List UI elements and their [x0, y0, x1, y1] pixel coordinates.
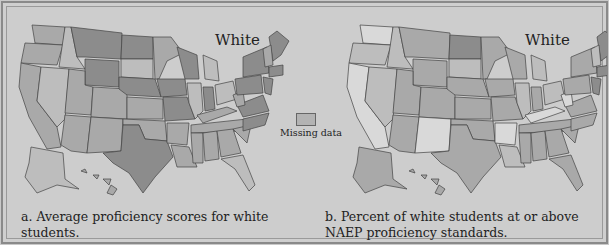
panel-a-average-scores: White a. Average proficiency scores for … [7, 7, 307, 238]
panel-b-title: White [525, 31, 570, 49]
panel-a-title: White [215, 31, 260, 49]
panel-b-caption-line1: b. Percent of white students at or above [325, 209, 579, 225]
panel-b-percent-proficient: White b. Percent of white students at or… [307, 7, 607, 238]
panel-b-caption: b. Percent of white students at or above… [325, 209, 579, 241]
figure-frame: White a. Average proficiency scores for … [1, 1, 608, 244]
figure-inner: White a. Average proficiency scores for … [6, 6, 603, 239]
panel-a-caption: a. Average proficiency scores for white … [21, 209, 268, 241]
panel-a-caption-line2: students. [21, 225, 268, 241]
panel-b-caption-line2: NAEP proficiency standards. [325, 225, 579, 241]
panel-a-caption-line1: a. Average proficiency scores for white [21, 209, 268, 225]
us-map-a [7, 7, 307, 207]
